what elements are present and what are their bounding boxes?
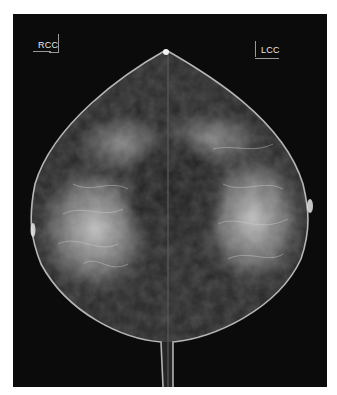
lcc-bracket xyxy=(255,41,256,57)
mammogram-panel: RCC LCC xyxy=(13,14,327,387)
view-label-lcc: LCC xyxy=(261,45,280,55)
lcc-underline xyxy=(255,58,279,59)
mammogram-image xyxy=(13,14,327,387)
rcc-underline xyxy=(33,51,51,52)
